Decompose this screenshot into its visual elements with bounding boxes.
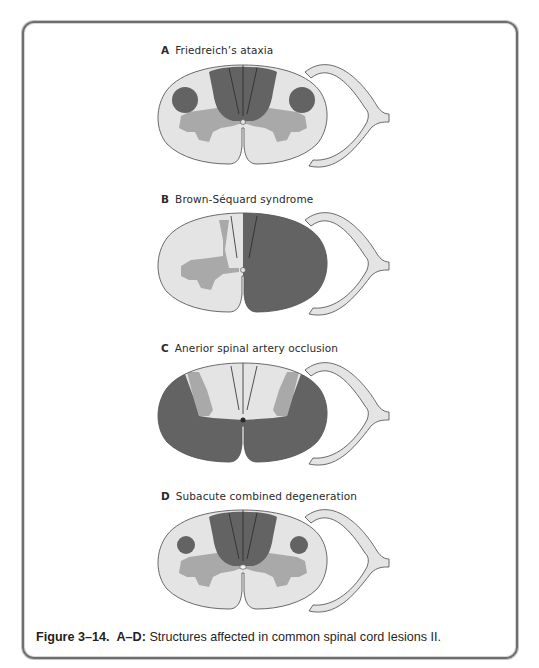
diagram-a	[158, 65, 389, 167]
diagram-d	[158, 510, 389, 612]
figure-caption-text: Structures affected in common spinal cor…	[149, 630, 441, 644]
central-canal	[241, 418, 246, 423]
figure-range: A–D:	[117, 630, 146, 644]
spinal-cord-diagrams	[0, 0, 539, 668]
central-canal	[240, 565, 246, 570]
diagram-b	[158, 210, 389, 330]
figure-number: Figure 3–14.	[36, 630, 110, 644]
diagram-c	[143, 363, 389, 480]
central-canal	[241, 268, 246, 273]
figure-caption: Figure 3–14. A–D: Structures affected in…	[36, 630, 441, 644]
central-canal	[241, 120, 246, 125]
